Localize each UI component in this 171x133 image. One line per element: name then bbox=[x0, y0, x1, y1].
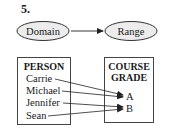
course-grade-title-line1: COURSE bbox=[108, 61, 150, 72]
course-grade-title-line2: GRADE bbox=[111, 72, 147, 83]
person-box-title: PERSON bbox=[24, 61, 65, 72]
range-oval: Range bbox=[105, 22, 157, 41]
person-item-jennifer: Jennifer bbox=[26, 97, 60, 108]
mapping-diagram: 5. Domain Range PERSON Carrie Michael Je… bbox=[0, 0, 171, 133]
person-item-sean: Sean bbox=[26, 110, 47, 121]
problem-number: 5. bbox=[21, 2, 30, 16]
range-label: Range bbox=[118, 26, 145, 37]
person-item-michael: Michael bbox=[26, 85, 60, 96]
domain-label: Domain bbox=[26, 26, 61, 37]
person-item-carrie: Carrie bbox=[26, 73, 53, 84]
domain-oval: Domain bbox=[17, 22, 69, 41]
grade-item-b: B bbox=[126, 103, 133, 114]
grade-item-a: A bbox=[126, 91, 134, 102]
course-grade-box: COURSE GRADE A B bbox=[105, 58, 154, 123]
